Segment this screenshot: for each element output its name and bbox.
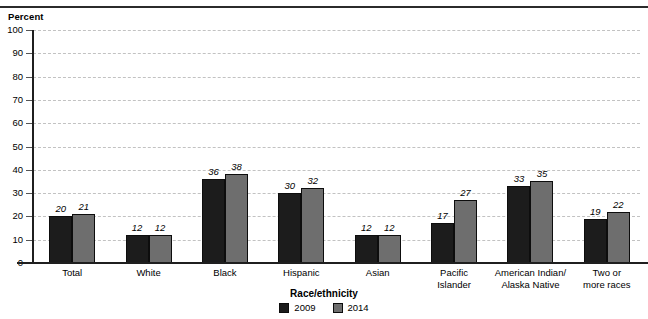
- y-tick-label: 90: [0, 48, 23, 58]
- gridline: [33, 77, 640, 78]
- gridline: [33, 30, 640, 31]
- y-tick-label: 30: [0, 188, 23, 198]
- bar-value-label: 38: [219, 162, 254, 172]
- legend-swatch: [279, 303, 289, 313]
- x-category-label: Black: [187, 267, 263, 279]
- x-axis-title: Race/ethnicity: [0, 288, 648, 299]
- legend-swatch: [333, 303, 343, 313]
- bar-2014-black: [225, 174, 248, 263]
- y-tick-label: 60: [0, 118, 23, 128]
- chart-legend: 20092014: [0, 303, 648, 313]
- gridline: [33, 53, 640, 54]
- bar-2009-black: [202, 179, 225, 263]
- legend-label: 2014: [348, 303, 369, 313]
- bar-value-label: 35: [524, 169, 559, 179]
- x-category-label: Total: [34, 267, 110, 279]
- bar-2009-hispanic: [278, 193, 301, 263]
- x-axis-line: [17, 262, 648, 264]
- x-category-label: Hispanic: [263, 267, 339, 279]
- bar-2009-two-or-more-races: [584, 219, 607, 263]
- bar-2014-asian: [378, 235, 401, 263]
- legend-label: 2009: [294, 303, 315, 313]
- bar-value-label: 21: [66, 202, 101, 212]
- bar-value-label: 32: [295, 176, 330, 186]
- bar-2014-two-or-more-races: [607, 212, 630, 263]
- chart-plot-area: 1009080706050403020100 20211212363830321…: [0, 0, 648, 319]
- x-category-label: Asian: [340, 267, 416, 279]
- y-tick-label: 50: [0, 142, 23, 152]
- bar-2014-white: [149, 235, 172, 263]
- y-tick-label: 40: [0, 165, 23, 175]
- bar-2014-hispanic: [301, 188, 324, 263]
- bar-2014-pacific-islander: [454, 200, 477, 263]
- bar-2009-total: [49, 216, 72, 263]
- y-tick-label: 80: [0, 72, 23, 82]
- gridline: [33, 123, 640, 124]
- legend-item-2009[interactable]: 2009: [279, 303, 315, 313]
- bar-2009-white: [126, 235, 149, 263]
- bar-2009-asian: [355, 235, 378, 263]
- bar-value-label: 27: [448, 188, 483, 198]
- bar-2014-total: [72, 214, 95, 263]
- y-tick-label: 70: [0, 95, 23, 105]
- x-category-label: American Indian/Alaska Native: [492, 267, 568, 290]
- gridline: [33, 100, 640, 101]
- gridline: [33, 147, 640, 148]
- bar-value-label: 12: [143, 223, 178, 233]
- y-tick-label: 20: [0, 211, 23, 221]
- x-category-label: PacificIslander: [416, 267, 492, 290]
- legend-item-2014[interactable]: 2014: [333, 303, 369, 313]
- bar-value-label: 12: [372, 223, 407, 233]
- x-category-label: White: [110, 267, 186, 279]
- x-category-label: Two ormore races: [569, 267, 645, 290]
- y-tick-label: 10: [0, 235, 23, 245]
- y-axis-line: [32, 30, 34, 264]
- bar-2014-american-indian--alaska-native: [530, 181, 553, 263]
- bar-2009-american-indian--alaska-native: [507, 186, 530, 263]
- bar-value-label: 22: [601, 200, 636, 210]
- bar-2009-pacific-islander: [431, 223, 454, 263]
- y-tick-label: 100: [0, 25, 23, 35]
